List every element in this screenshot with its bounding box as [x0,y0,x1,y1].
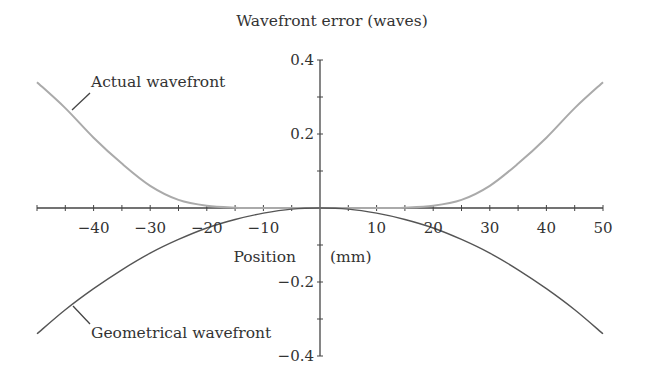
wavefront-error-chart: −40−30−20−1010203040500.40.2−0.2−0.4 Wav… [0,0,647,387]
x-axis-label-position: Position [233,248,296,266]
x-tick-label: −20 [191,219,223,237]
x-tick-label: 20 [424,219,443,237]
x-tick-label: 40 [537,219,556,237]
x-tick-label: 10 [367,219,386,237]
geometrical-wavefront-leader-line [73,306,90,324]
actual-wavefront-leader-line [72,93,90,110]
x-tick-label: −30 [134,219,166,237]
chart-title: Wavefront error (waves) [236,12,428,30]
plot-area: −40−30−20−1010203040500.40.2−0.2−0.4 Wav… [0,0,647,387]
annotation-actual-wavefront: Actual wavefront [90,73,226,91]
y-tick-label: 0.4 [290,51,314,69]
x-tick-label: 30 [480,219,499,237]
y-tick-label: −0.2 [278,273,314,291]
x-tick-label: −10 [248,219,280,237]
x-tick-label: 50 [593,219,612,237]
annotation-geometrical-wavefront: Geometrical wavefront [91,324,272,342]
x-tick-label: −40 [78,219,110,237]
y-tick-label: −0.4 [278,347,314,365]
y-tick-label: 0.2 [290,125,314,143]
x-axis-label-units: (mm) [330,248,372,266]
